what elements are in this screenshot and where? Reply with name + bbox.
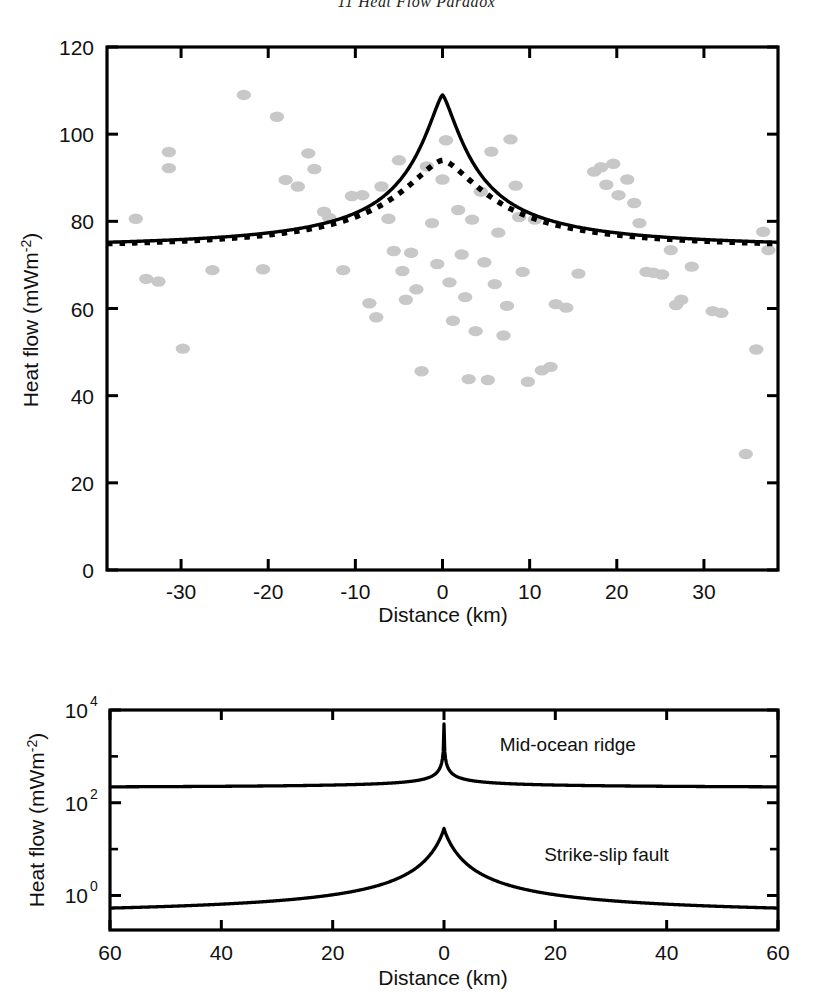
scatter-point — [739, 449, 753, 459]
svg-text:2: 2 — [90, 786, 98, 802]
top-x-tick-label: -30 — [166, 580, 196, 603]
top-y-axis-title-tail: ) — [19, 233, 42, 240]
bottom-x-tick-label: 40 — [655, 941, 678, 964]
bottom-x-tick-label: 60 — [98, 941, 121, 964]
scatter-point — [749, 344, 763, 354]
scatter-point — [420, 161, 434, 171]
svg-text:Heat flow (mWm-2): Heat flow (mWm-2) — [18, 233, 42, 408]
scatter-point — [655, 269, 669, 279]
scatter-point — [521, 377, 535, 387]
scatter-point — [620, 174, 634, 184]
curve-strike-slip-fault — [110, 828, 778, 908]
scatter-point — [395, 266, 409, 276]
scatter-point — [435, 174, 449, 184]
scatter-point — [477, 257, 491, 267]
scatter-point — [392, 155, 406, 165]
scatter-point — [714, 308, 728, 318]
label-strike-slip-fault: Strike-slip fault — [544, 844, 669, 865]
scatter-point — [674, 295, 688, 305]
scatter-point — [599, 180, 613, 190]
top-x-tick-label: 0 — [437, 580, 449, 603]
bottom-plot-tick-labels: 6040200204060100102104 — [65, 693, 790, 964]
scatter-point — [414, 366, 428, 376]
scatter-point — [162, 163, 176, 173]
scatter-point — [627, 198, 641, 208]
top-y-axis-title: Heat flow (mWm-2) — [18, 233, 42, 408]
scatter-point — [301, 148, 315, 158]
svg-text:0: 0 — [90, 878, 98, 894]
bottom-y-tick-label: 104 — [65, 693, 98, 722]
scatter-point — [491, 227, 505, 237]
svg-text:10: 10 — [65, 884, 88, 907]
running-header: 11 Heat Flow Paradox — [0, 0, 833, 11]
scatter-point — [515, 267, 529, 277]
scatter-point — [374, 181, 388, 191]
top-x-tick-label: -20 — [253, 580, 283, 603]
figure-heat-flow-models: 6040200204060100102104 Mid-ocean ridgeSt… — [0, 640, 833, 1001]
top-y-tick-label: 20 — [71, 472, 94, 495]
scatter-point — [761, 245, 775, 255]
scatter-point — [151, 276, 165, 286]
scatter-point — [270, 112, 284, 122]
bottom-model-curves-group — [110, 724, 778, 908]
bottom-y-tick-label: 100 — [65, 878, 98, 907]
top-y-tick-label: 100 — [59, 123, 94, 146]
scatter-point — [139, 274, 153, 284]
svg-text:Heat flow (mWm-2): Heat flow (mWm-2) — [24, 733, 48, 908]
top-x-tick-label: -10 — [340, 580, 370, 603]
scatter-point — [362, 298, 376, 308]
bottom-y-axis-title-base: Heat flow (mWm — [25, 752, 48, 907]
scatter-point — [496, 330, 510, 340]
scatter-point — [291, 181, 305, 191]
scatter-point — [307, 164, 321, 174]
scatter-point — [543, 362, 557, 372]
scatter-point — [481, 375, 495, 385]
scatter-point — [461, 374, 475, 384]
bottom-x-tick-label: 20 — [544, 941, 567, 964]
bottom-y-tick-label: 102 — [65, 786, 98, 815]
top-x-tick-label: 20 — [605, 580, 628, 603]
scatter-point — [430, 259, 444, 269]
curve-mid-ocean-ridge — [110, 724, 778, 787]
svg-text:4: 4 — [90, 693, 98, 709]
top-y-tick-label: 0 — [82, 559, 94, 582]
bottom-y-axis-title: Heat flow (mWm-2) — [24, 733, 48, 908]
scatter-point — [571, 268, 585, 278]
top-y-tick-label: 40 — [71, 385, 94, 408]
scatter-point — [442, 277, 456, 287]
scatter-point — [632, 218, 646, 228]
scatter-point — [503, 134, 517, 144]
scatter-point — [500, 301, 514, 311]
bottom-x-tick-label: 20 — [321, 941, 344, 964]
top-y-tick-label: 60 — [71, 298, 94, 321]
scatter-point — [468, 326, 482, 336]
scatter-point — [439, 135, 453, 145]
scatter-point — [162, 147, 176, 157]
top-y-axis-title-exponent: -2 — [18, 239, 34, 252]
model-curve-dotted — [107, 160, 778, 243]
svg-text:10: 10 — [65, 699, 88, 722]
scatter-point — [458, 292, 472, 302]
scatter-point — [237, 90, 251, 100]
scatter-point — [756, 227, 770, 237]
top-x-tick-label: 30 — [692, 580, 715, 603]
figure-heat-flow-scatter: -30-20-100102030020406080100120 Heat flo… — [0, 20, 833, 640]
scatter-point — [336, 265, 350, 275]
scatter-point — [611, 190, 625, 200]
scatter-point — [664, 245, 678, 255]
scatter-point — [484, 146, 498, 156]
top-y-axis-title-base: Heat flow (mWm — [19, 252, 42, 407]
scatter-point — [409, 284, 423, 294]
scatter-point — [446, 316, 460, 326]
scatter-point — [404, 248, 418, 258]
top-y-tick-label: 80 — [71, 210, 94, 233]
scatter-point — [399, 295, 413, 305]
model-curves-group — [107, 95, 778, 244]
scatter-point — [465, 214, 479, 224]
bottom-x-tick-label: 0 — [438, 941, 450, 964]
scatter-point — [369, 312, 383, 322]
scatter-point — [129, 214, 143, 224]
top-plot-tick-labels: -30-20-100102030020406080100120 — [59, 36, 716, 603]
top-y-tick-label: 120 — [59, 36, 94, 59]
scatter-point — [488, 279, 502, 289]
